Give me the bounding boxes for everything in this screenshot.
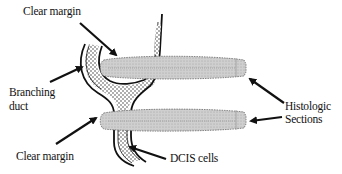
label-branching-duct-line1: Branching <box>9 86 55 99</box>
label-histologic-line1: Histologic <box>285 100 331 113</box>
histologic-section-upper <box>100 56 246 79</box>
label-clear-margin-bottom: Clear margin <box>16 150 74 163</box>
arrow-clear-margin-top <box>80 23 116 55</box>
arrow-branching-duct <box>50 67 82 82</box>
arrow-histologic-upper <box>250 79 284 103</box>
label-clear-margin-top: Clear margin <box>23 5 81 18</box>
arrow-clear-margin-bottom <box>56 118 96 144</box>
arrow-histologic-lower <box>251 117 282 121</box>
label-histologic-line2: Sections <box>285 113 322 126</box>
annotation-arrows <box>50 23 284 159</box>
branching-duct <box>81 14 162 166</box>
label-branching-duct-line2: duct <box>9 100 28 113</box>
label-dcis-cells: DCIS cells <box>170 152 218 165</box>
histologic-section-lower <box>100 109 246 131</box>
